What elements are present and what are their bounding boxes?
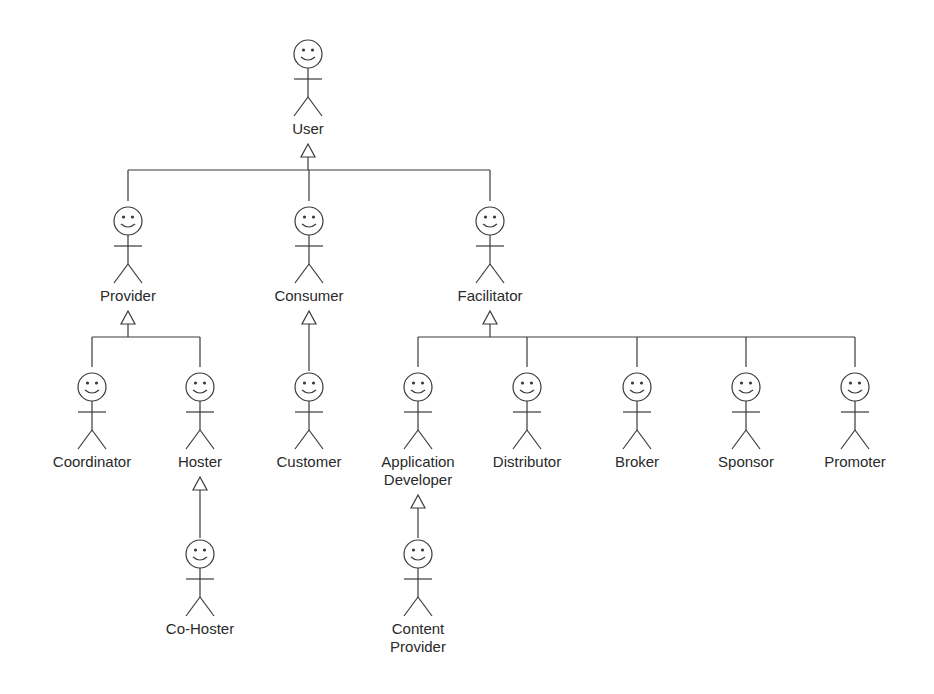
actor-eye-icon — [858, 381, 861, 384]
actor-head-icon — [186, 373, 214, 401]
actor-label-broker: Broker — [615, 453, 659, 471]
actor-label-facilitator: Facilitator — [457, 287, 522, 305]
actor-smile-icon — [520, 390, 534, 393]
actor-eye-icon — [303, 215, 306, 218]
actor-left-leg — [295, 264, 309, 283]
actor-eye-icon — [493, 215, 496, 218]
actor-smile-icon — [193, 390, 207, 393]
actor-smile-icon — [301, 57, 315, 60]
actor-left-leg — [294, 97, 308, 116]
generalization-arrow-icon — [121, 311, 135, 324]
actor-left-leg — [476, 264, 490, 283]
actor-diagram — [0, 0, 934, 694]
actor-consumer — [295, 207, 323, 283]
actor-coordinator — [78, 373, 106, 449]
actor-eye-icon — [122, 215, 125, 218]
actor-eye-icon — [312, 381, 315, 384]
actor-eye-icon — [203, 548, 206, 551]
actor-eye-icon — [203, 381, 206, 384]
actor-head-icon — [404, 373, 432, 401]
actor-eye-icon — [421, 548, 424, 551]
generalization-hoster — [193, 477, 207, 538]
actor-right-leg — [527, 430, 541, 449]
actor-eye-icon — [302, 48, 305, 51]
generalization-arrow-icon — [483, 311, 497, 324]
actor-label-co-hoster: Co-Hoster — [166, 620, 234, 638]
actor-facilitator — [476, 207, 504, 283]
actor-eye-icon — [311, 48, 314, 51]
actor-smile-icon — [848, 390, 862, 393]
actor-user — [294, 40, 322, 116]
actor-right-leg — [200, 430, 214, 449]
actor-smile-icon — [302, 390, 316, 393]
actor-eye-icon — [640, 381, 643, 384]
actor-label-content-provider: Content Provider — [390, 620, 446, 656]
actor-smile-icon — [630, 390, 644, 393]
actor-right-leg — [490, 264, 504, 283]
actor-smile-icon — [739, 390, 753, 393]
generalization-arrow-icon — [302, 311, 316, 324]
actor-eye-icon — [412, 381, 415, 384]
actor-eye-icon — [86, 381, 89, 384]
actor-head-icon — [295, 207, 323, 235]
actor-label-coordinator: Coordinator — [53, 453, 131, 471]
actor-label-sponsor: Sponsor — [718, 453, 774, 471]
generalization-facilitator — [418, 311, 855, 367]
actor-eye-icon — [412, 548, 415, 551]
actor-eye-icon — [421, 381, 424, 384]
actor-provider — [114, 207, 142, 283]
actor-left-leg — [623, 430, 637, 449]
actor-right-leg — [418, 597, 432, 616]
actor-right-leg — [637, 430, 651, 449]
actor-eye-icon — [194, 548, 197, 551]
actor-head-icon — [295, 373, 323, 401]
actor-distributor — [513, 373, 541, 449]
actor-promoter — [841, 373, 869, 449]
actor-label-promoter: Promoter — [824, 453, 886, 471]
actor-right-leg — [92, 430, 106, 449]
actor-smile-icon — [483, 224, 497, 227]
actor-smile-icon — [411, 390, 425, 393]
actor-right-leg — [418, 430, 432, 449]
actor-eye-icon — [95, 381, 98, 384]
generalization-arrow-icon — [411, 495, 425, 508]
actor-label-application-developer: Application Developer — [381, 453, 454, 489]
actor-right-leg — [309, 430, 323, 449]
generalization-application-developer — [411, 495, 425, 538]
generalization-consumer — [302, 311, 316, 371]
actor-left-leg — [186, 430, 200, 449]
actor-eye-icon — [521, 381, 524, 384]
actor-left-leg — [404, 430, 418, 449]
actor-head-icon — [186, 540, 214, 568]
actor-right-leg — [309, 264, 323, 283]
actor-application-developer — [404, 373, 432, 449]
actor-head-icon — [404, 540, 432, 568]
actor-eye-icon — [194, 381, 197, 384]
actor-label-consumer: Consumer — [274, 287, 343, 305]
actor-head-icon — [732, 373, 760, 401]
actor-label-customer: Customer — [276, 453, 341, 471]
actor-right-leg — [855, 430, 869, 449]
generalization-arrow-icon — [193, 477, 207, 490]
actor-left-leg — [114, 264, 128, 283]
generalization-user — [128, 144, 490, 201]
actor-eye-icon — [631, 381, 634, 384]
actor-broker — [623, 373, 651, 449]
actor-head-icon — [114, 207, 142, 235]
actor-head-icon — [841, 373, 869, 401]
actor-co-hoster — [186, 540, 214, 616]
generalization-arrow-icon — [301, 144, 315, 157]
actor-head-icon — [623, 373, 651, 401]
actor-label-distributor: Distributor — [493, 453, 561, 471]
actor-eye-icon — [530, 381, 533, 384]
actor-eye-icon — [740, 381, 743, 384]
actor-head-icon — [476, 207, 504, 235]
actor-head-icon — [78, 373, 106, 401]
actor-smile-icon — [411, 557, 425, 560]
actor-eye-icon — [303, 381, 306, 384]
actor-eye-icon — [312, 215, 315, 218]
actor-right-leg — [128, 264, 142, 283]
actor-label-user: User — [292, 120, 324, 138]
generalization-provider — [92, 311, 200, 367]
actor-left-leg — [78, 430, 92, 449]
